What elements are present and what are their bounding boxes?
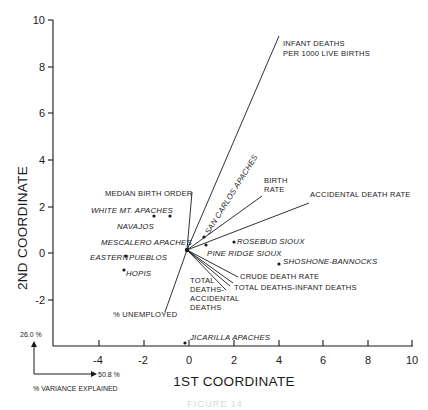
x-axis-title: 1ST COORDINATE: [173, 374, 294, 389]
vec-label-total-acc-2: DEATHS-: [190, 285, 224, 294]
vec-label-infant-2: PER 1000 LIVE BIRTHS: [283, 49, 370, 58]
vectors: [165, 36, 309, 312]
biplot-chart: 10 8 6 4 2 0 -2 -4 -2 0 2 4 6 8 10 1ST C…: [0, 0, 428, 410]
x-tick-4: 4: [276, 354, 282, 366]
grp-label-hopis: HOPIS: [126, 269, 152, 278]
point-shoshone-bannocks: [277, 262, 280, 265]
variance-label: % VARIANCE EXPLAINED: [33, 385, 118, 392]
y-tick-2: 2: [39, 201, 45, 213]
grp-label-mescalero: MESCALERO APACHES: [101, 238, 193, 247]
vec-label-median: MEDIAN BIRTH ORDER: [105, 189, 193, 198]
x-tick-neg2: -2: [138, 354, 148, 366]
vec-label-infant-1: INFANT DEATHS: [283, 39, 345, 48]
arrow-right-icon: [91, 371, 97, 377]
x-tick-8: 8: [365, 354, 371, 366]
grp-label-rosebud: ROSEBUD SIOUX: [237, 237, 305, 246]
vec-label-accidental: ACCIDENTAL DEATH RATE: [310, 190, 411, 199]
point-jicarilla-apaches: [183, 341, 186, 344]
variance-indicator: 26.0 % 50.8 % % VARIANCE EXPLAINED: [20, 331, 120, 392]
vec-label-crude: CRUDE DEATH RATE: [240, 272, 319, 281]
x-tick-neg4: -4: [93, 354, 103, 366]
vec-label-total-acc-1: TOTAL: [190, 276, 215, 285]
point-rosebud-sioux: [232, 240, 235, 243]
y-tick-labels: 10 8 6 4 2 0 -2: [33, 14, 45, 306]
vec-label-birth-2: RATE: [264, 185, 285, 194]
grp-label-san-carlos: SAN CARLOS APACHES: [203, 152, 260, 236]
y-tick-10: 10: [33, 14, 45, 26]
vec-label-unemployed: % UNEMPLOYED: [113, 310, 178, 319]
y-tick-neg2: -2: [35, 294, 45, 306]
grp-label-pueblos: PUEBLOS: [129, 253, 168, 262]
y-axis-title: 2ND COORDINATE: [15, 166, 30, 290]
vec-label-total-infant: TOTAL DEATHS-INFANT DEATHS: [234, 283, 357, 292]
grp-label-navajos: NAVAJOS: [117, 222, 155, 231]
point-mescalero-apaches: [185, 248, 189, 252]
grp-label-shoshone: SHOSHONE-BANNOCKS: [283, 257, 378, 266]
x-tick-labels: -4 -2 0 2 4 6 8 10: [93, 354, 418, 366]
x-tick-0: 0: [186, 354, 192, 366]
point-pine-ridge-sioux: [204, 243, 207, 246]
y-tick-6: 6: [39, 107, 45, 119]
variance-x-value: 50.8 %: [98, 371, 120, 378]
y-tick-4: 4: [39, 154, 45, 166]
y-tick-0: 0: [39, 247, 45, 259]
grp-label-pine-ridge: PINE RIDGE SIOUX: [207, 249, 282, 258]
vec-label-total-acc-4: DEATHS: [190, 303, 221, 312]
x-tick-10: 10: [406, 354, 418, 366]
vec-label-birth-1: BIRTH: [264, 176, 288, 185]
arrow-up-icon: [31, 341, 37, 347]
x-tick-2: 2: [231, 354, 237, 366]
y-tick-8: 8: [39, 61, 45, 73]
figure-caption: FIGURE 14: [187, 399, 243, 409]
variance-y-value: 26.0 %: [20, 331, 42, 338]
grp-label-eastern: EASTERN: [90, 253, 128, 262]
grp-label-white-mt: WHITE MT. APACHES: [91, 206, 174, 215]
point-san-carlos-apaches: [202, 235, 205, 238]
vec-label-total-acc-3: ACCIDENTAL: [190, 294, 240, 303]
grp-label-jicarilla: JICARILLA APACHES: [189, 333, 271, 342]
x-tick-6: 6: [320, 354, 326, 366]
vector-unemployed: [165, 250, 187, 312]
vector-infant-deaths: [187, 36, 279, 250]
